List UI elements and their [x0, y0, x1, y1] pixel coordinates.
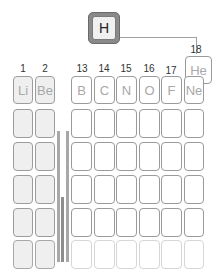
- empty-p-block-cell[interactable]: [161, 240, 182, 269]
- empty-p-block-cell[interactable]: [116, 175, 137, 204]
- empty-p-block-cell[interactable]: [71, 208, 92, 237]
- empty-p-block-cell[interactable]: [184, 208, 204, 237]
- lithium-cell[interactable]: Li: [13, 76, 33, 104]
- hydrogen-symbol: H: [92, 16, 116, 40]
- empty-p-block-cell[interactable]: [161, 175, 182, 204]
- empty-p-block-cell[interactable]: [161, 142, 182, 171]
- empty-p-block-cell[interactable]: [71, 175, 92, 204]
- empty-p-block-cell[interactable]: [139, 208, 160, 237]
- neon-cell[interactable]: Ne: [184, 76, 204, 104]
- oxygen-cell[interactable]: O: [139, 76, 160, 104]
- empty-p-block-cell[interactable]: [94, 142, 115, 171]
- transition-block-bar: [57, 131, 60, 262]
- group-label-18: 18: [185, 44, 207, 55]
- empty-p-block-cell[interactable]: [139, 109, 160, 138]
- group-label-1: 1: [12, 63, 34, 74]
- empty-p-block-cell[interactable]: [184, 240, 204, 269]
- empty-s-block-cell[interactable]: [13, 142, 33, 171]
- empty-p-block-cell[interactable]: [139, 175, 160, 204]
- empty-p-block-cell[interactable]: [116, 142, 137, 171]
- boron-cell[interactable]: B: [71, 76, 92, 104]
- group-label-17: 17: [160, 65, 182, 76]
- group-label-15: 15: [115, 63, 137, 74]
- empty-s-block-cell[interactable]: [13, 109, 33, 138]
- group-label-16: 16: [138, 63, 160, 74]
- group-label-2: 2: [34, 63, 56, 74]
- empty-s-block-cell[interactable]: [35, 142, 55, 171]
- empty-p-block-cell[interactable]: [139, 142, 160, 171]
- group-label-14: 14: [93, 63, 115, 74]
- hydrogen-helium-connector: [117, 37, 196, 38]
- empty-p-block-cell[interactable]: [116, 208, 137, 237]
- empty-p-block-cell[interactable]: [71, 142, 92, 171]
- empty-p-block-cell[interactable]: [139, 240, 160, 269]
- empty-p-block-cell[interactable]: [94, 240, 115, 269]
- empty-s-block-cell[interactable]: [35, 175, 55, 204]
- fluorine-cell[interactable]: F: [161, 76, 182, 104]
- empty-p-block-cell[interactable]: [94, 208, 115, 237]
- transition-block-bar-short: [61, 197, 64, 262]
- empty-p-block-cell[interactable]: [184, 109, 204, 138]
- empty-p-block-cell[interactable]: [94, 109, 115, 138]
- empty-p-block-cell[interactable]: [161, 109, 182, 138]
- empty-p-block-cell[interactable]: [71, 240, 92, 269]
- empty-s-block-cell[interactable]: [13, 240, 33, 269]
- empty-p-block-cell[interactable]: [161, 208, 182, 237]
- hydrogen-cell-selected[interactable]: H: [88, 12, 120, 44]
- group-label-13: 13: [71, 63, 93, 74]
- empty-s-block-cell[interactable]: [35, 240, 55, 269]
- empty-p-block-cell[interactable]: [116, 109, 137, 138]
- empty-p-block-cell[interactable]: [184, 175, 204, 204]
- empty-p-block-cell[interactable]: [184, 142, 204, 171]
- nitrogen-cell[interactable]: N: [116, 76, 137, 104]
- empty-p-block-cell[interactable]: [71, 109, 92, 138]
- empty-s-block-cell[interactable]: [13, 175, 33, 204]
- transition-block-bar: [66, 131, 69, 262]
- carbon-cell[interactable]: C: [94, 76, 115, 104]
- empty-s-block-cell[interactable]: [35, 208, 55, 237]
- empty-s-block-cell[interactable]: [35, 109, 55, 138]
- empty-p-block-cell[interactable]: [94, 175, 115, 204]
- beryllium-cell[interactable]: Be: [35, 76, 55, 104]
- empty-p-block-cell[interactable]: [116, 240, 137, 269]
- empty-s-block-cell[interactable]: [13, 208, 33, 237]
